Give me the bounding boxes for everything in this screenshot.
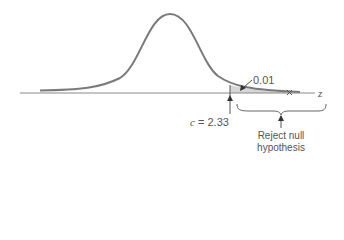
critical-value-equals: = xyxy=(198,116,204,128)
critical-value-number: 2.33 xyxy=(207,116,228,128)
reject-label-line2: hypothesis xyxy=(246,142,316,154)
critical-value-label: c = 2.33 xyxy=(190,116,229,128)
reject-arrow-icon xyxy=(278,115,284,121)
tail-area-label: 0.01 xyxy=(253,74,274,86)
critical-value-arrow-icon xyxy=(227,95,233,101)
rejection-region-label: Reject null hypothesis xyxy=(246,130,316,154)
critical-value-variable: c xyxy=(190,116,195,128)
reject-label-line1: Reject null xyxy=(246,130,316,142)
rejection-region-brace xyxy=(237,104,326,115)
z-axis-label: z xyxy=(318,87,322,99)
